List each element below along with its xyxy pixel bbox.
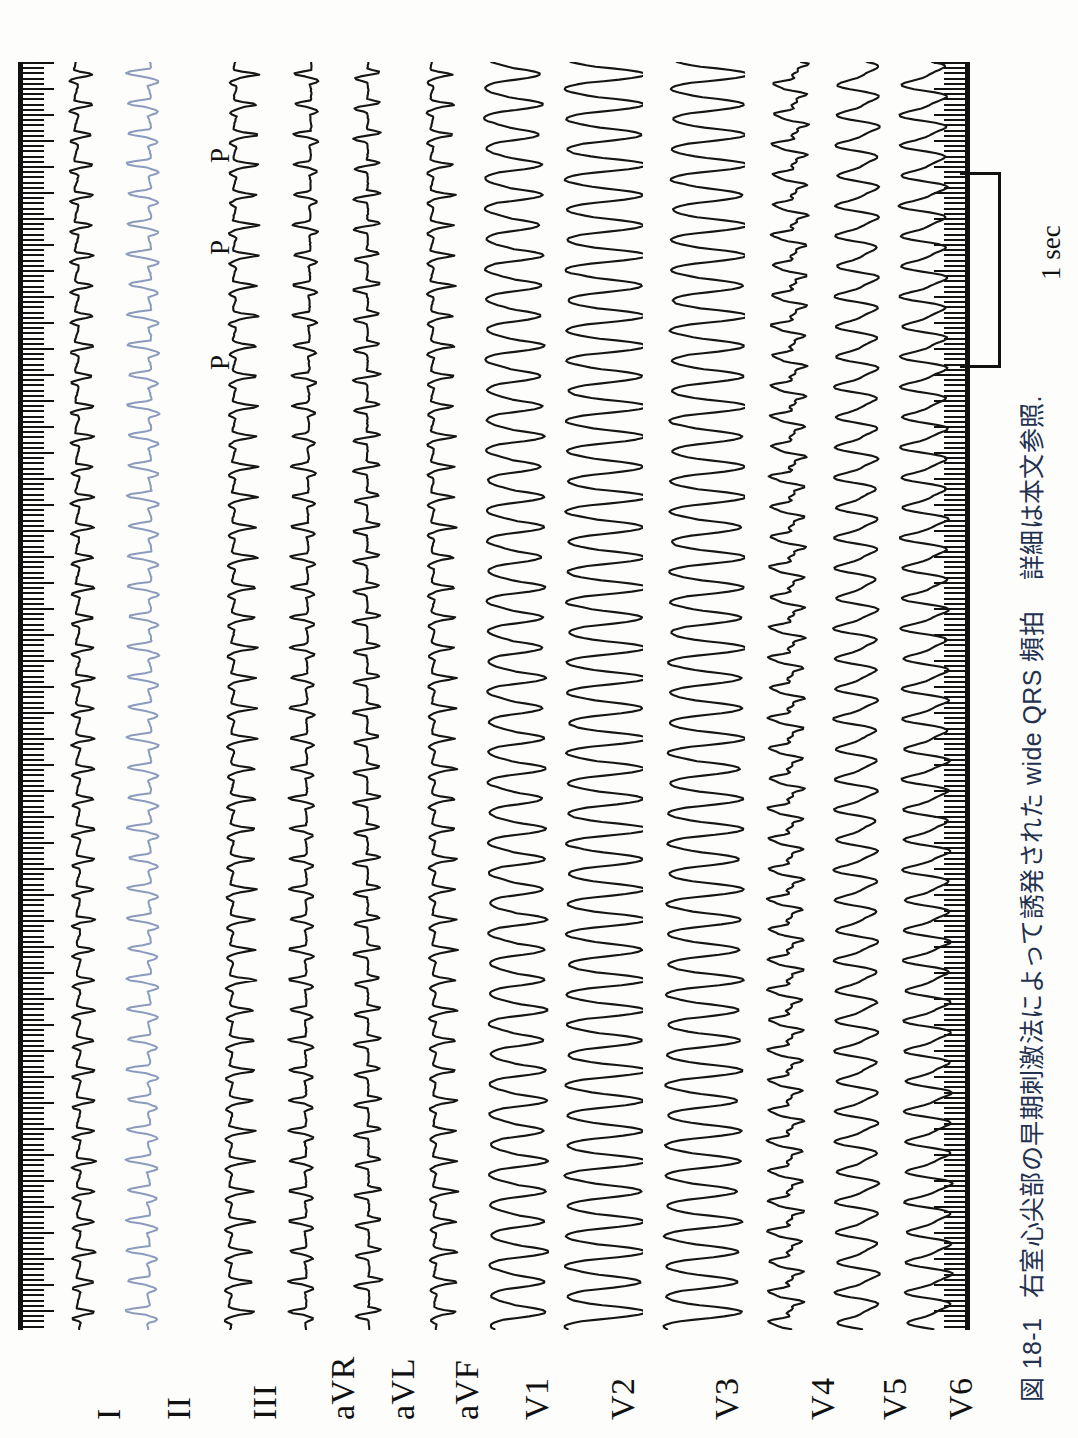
scale-bar-bracket — [960, 172, 1001, 368]
lead-label-v3: V3 — [708, 1377, 746, 1420]
p-wave-label: P — [205, 148, 236, 163]
lead-label-v4: V4 — [804, 1377, 842, 1420]
lead-label-avf: aVF — [448, 1360, 486, 1420]
lead-trace-ii — [109, 62, 183, 1330]
lead-trace-avf — [401, 62, 467, 1330]
figure-title: 右室心尖部の早期刺激法によって誘発された wide QRS 頻拍 — [1018, 611, 1046, 1298]
lead-trace-v4 — [753, 62, 827, 1330]
lead-trace-v2 — [537, 62, 643, 1330]
lead-label-v2: V2 — [604, 1377, 642, 1420]
lead-label-i: I — [90, 1408, 128, 1420]
figure-note: 詳細は本文参照. — [1018, 395, 1046, 580]
lead-trace-v6 — [887, 62, 969, 1330]
lead-label-avr: aVR — [324, 1356, 362, 1420]
lead-trace-i — [44, 62, 108, 1330]
lead-label-v5: V5 — [876, 1377, 914, 1420]
figure-page: IIIIIIaVRaVLaVFV1V2V3V4V5V6 PPP 1 sec 図 … — [0, 0, 1078, 1438]
scale-bar-label: 1 sec — [1036, 225, 1067, 280]
lead-label-iii: III — [246, 1385, 284, 1420]
figure-caption: 図 18-1 右室心尖部の早期刺激法によって誘発された wide QRS 頻拍 … — [1012, 395, 1048, 1402]
lead-trace-avl — [339, 62, 401, 1330]
lead-label-avl: aVL — [384, 1358, 422, 1420]
figure-number: 図 18-1 — [1018, 1318, 1046, 1402]
lead-label-v6: V6 — [942, 1377, 980, 1420]
p-wave-label: P — [205, 355, 236, 370]
ecg-strip — [18, 62, 970, 1330]
lead-label-ii: II — [160, 1396, 198, 1420]
lead-trace-v1 — [459, 62, 549, 1330]
lead-trace-v3 — [643, 62, 745, 1330]
p-wave-label: P — [205, 240, 236, 255]
lead-label-v1: V1 — [518, 1377, 556, 1420]
time-ruler-left — [18, 62, 44, 1330]
lead-trace-avr — [279, 62, 341, 1330]
